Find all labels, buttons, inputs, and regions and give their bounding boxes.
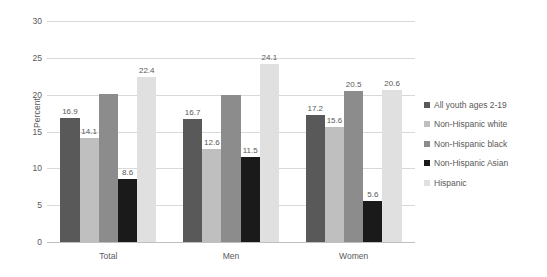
bar-slot: 16.9 bbox=[60, 21, 79, 242]
bar-slot: 16.7 bbox=[183, 21, 202, 242]
x-tick-label: Men bbox=[183, 251, 279, 261]
bar-slot: 22.4 bbox=[137, 21, 156, 242]
bar[interactable] bbox=[325, 127, 344, 242]
bar-value-label: 14.1 bbox=[81, 128, 97, 136]
x-tick-label: Women bbox=[306, 251, 402, 261]
chart-legend: All youth ages 2-19Non-Hispanic whiteNon… bbox=[424, 95, 544, 193]
legend-label: Non-Hispanic black bbox=[434, 139, 507, 149]
bar-chart: Percent 05101520253016.914.18.622.4Total… bbox=[0, 0, 547, 277]
plot-area: 05101520253016.914.18.622.4Total16.712.6… bbox=[47, 21, 415, 242]
bar-group-bars: 16.712.611.524.1 bbox=[183, 21, 279, 242]
legend-swatch-icon bbox=[424, 121, 430, 127]
bar-slot: 5.6 bbox=[363, 21, 382, 242]
bar-slot: 20.5 bbox=[344, 21, 363, 242]
bar[interactable] bbox=[221, 95, 240, 242]
bar[interactable] bbox=[202, 149, 221, 242]
y-tick-label: 30 bbox=[33, 16, 42, 26]
bar-slot: 8.6 bbox=[118, 21, 137, 242]
bar-value-label: 22.4 bbox=[139, 67, 155, 75]
legend-swatch-icon bbox=[424, 102, 430, 108]
bar-slot: 17.2 bbox=[306, 21, 325, 242]
bar[interactable] bbox=[99, 94, 118, 242]
legend-label: Non-Hispanic Asian bbox=[434, 158, 508, 168]
bar-value-label: 24.1 bbox=[262, 54, 278, 62]
bar-slot bbox=[99, 21, 118, 242]
legend-item[interactable]: All youth ages 2-19 bbox=[424, 95, 544, 115]
y-tick-label: 20 bbox=[33, 90, 42, 100]
bar-value-label: 16.7 bbox=[185, 109, 201, 117]
bar-slot: 24.1 bbox=[260, 21, 279, 242]
bar-slot: 14.1 bbox=[80, 21, 99, 242]
bar-slot: 15.6 bbox=[325, 21, 344, 242]
bar[interactable] bbox=[183, 119, 202, 242]
bar-value-label: 16.9 bbox=[62, 108, 78, 116]
y-tick-label: 0 bbox=[37, 237, 42, 247]
legend-item[interactable]: Non-Hispanic Asian bbox=[424, 154, 544, 174]
bar-value-label: 8.6 bbox=[122, 169, 133, 177]
bar-group-women: 17.215.620.55.620.6Women bbox=[306, 21, 402, 242]
bar[interactable] bbox=[306, 115, 325, 242]
legend-item[interactable]: Hispanic bbox=[424, 173, 544, 193]
bar-group-bars: 16.914.18.622.4 bbox=[60, 21, 156, 242]
bar-slot: 20.6 bbox=[382, 21, 401, 242]
bar-value-label: 15.6 bbox=[327, 117, 343, 125]
bar-value-label: 11.5 bbox=[243, 147, 258, 155]
bar-value-label: 20.6 bbox=[384, 80, 400, 88]
legend-item[interactable]: Non-Hispanic black bbox=[424, 134, 544, 154]
bar-group-total: 16.914.18.622.4Total bbox=[60, 21, 156, 242]
bar[interactable] bbox=[241, 157, 260, 242]
bar-slot: 11.5 bbox=[241, 21, 260, 242]
y-axis-title: Percent bbox=[32, 78, 42, 148]
bar[interactable] bbox=[363, 201, 382, 242]
y-tick-label: 15 bbox=[33, 127, 42, 137]
legend-swatch-icon bbox=[424, 141, 430, 147]
bar-slot bbox=[221, 21, 240, 242]
bar[interactable] bbox=[382, 90, 401, 242]
legend-swatch-icon bbox=[424, 180, 430, 186]
bar[interactable] bbox=[137, 77, 156, 242]
x-axis-line: 0 bbox=[47, 242, 415, 243]
legend-label: Hispanic bbox=[434, 178, 467, 188]
bar[interactable] bbox=[118, 179, 137, 242]
bar-value-label: 17.2 bbox=[307, 105, 323, 113]
bar-group-bars: 17.215.620.55.620.6 bbox=[306, 21, 402, 242]
x-tick-label: Total bbox=[60, 251, 156, 261]
bar-group-men: 16.712.611.524.1Men bbox=[183, 21, 279, 242]
bar-value-label: 5.6 bbox=[367, 191, 378, 199]
bar[interactable] bbox=[60, 118, 79, 242]
y-tick-label: 5 bbox=[37, 200, 42, 210]
y-tick-label: 25 bbox=[33, 53, 42, 63]
legend-item[interactable]: Non-Hispanic white bbox=[424, 115, 544, 135]
bar[interactable] bbox=[80, 138, 99, 242]
y-tick-label: 10 bbox=[33, 163, 42, 173]
bar[interactable] bbox=[260, 64, 279, 242]
bar[interactable] bbox=[344, 91, 363, 242]
bar-value-label: 12.6 bbox=[204, 139, 220, 147]
legend-label: All youth ages 2-19 bbox=[434, 100, 507, 110]
legend-swatch-icon bbox=[424, 160, 430, 166]
bar-value-label: 20.5 bbox=[346, 81, 362, 89]
legend-label: Non-Hispanic white bbox=[434, 119, 507, 129]
bar-slot: 12.6 bbox=[202, 21, 221, 242]
